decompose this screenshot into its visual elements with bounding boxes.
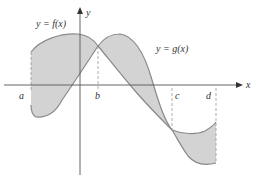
y-axis-arrow-icon xyxy=(77,7,83,14)
x-axis-label: x xyxy=(245,79,251,90)
x-axis-arrow-icon xyxy=(236,82,243,88)
g-label: y = g(x) xyxy=(155,43,189,55)
f-label: y = f(x) xyxy=(35,18,67,30)
area-between-curves-diagram: x y y = f(x) y = g(x) a b c d xyxy=(0,0,264,186)
b-label: b xyxy=(95,90,100,101)
c-label: c xyxy=(175,90,180,101)
a-label: a xyxy=(19,90,24,101)
d-label: d xyxy=(206,90,212,101)
shaded-region-a-b xyxy=(31,34,98,117)
y-axis-label: y xyxy=(85,7,91,18)
